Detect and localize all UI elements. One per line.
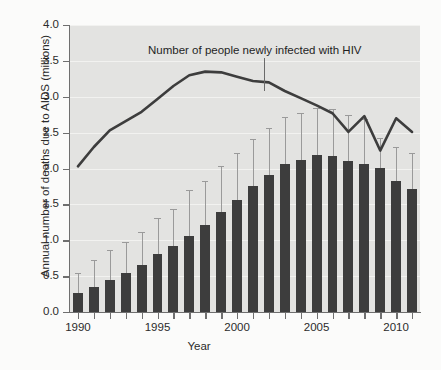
x-axis-tick: [237, 313, 238, 319]
y-axis-tick: [63, 97, 69, 98]
chart-figure: 0.00.51.01.52.02.53.03.54.0 199019952000…: [0, 0, 441, 370]
x-axis-tick: [142, 313, 143, 319]
y-axis-tick: [63, 133, 69, 134]
x-axis-tick: [333, 313, 334, 319]
hiv-infections-line-layer: [70, 25, 420, 312]
plot-panel: [70, 25, 420, 312]
x-axis-tick: [285, 313, 286, 319]
y-axis-tick: [63, 312, 69, 313]
x-axis-tick: [396, 313, 397, 319]
x-axis-tick: [126, 313, 127, 319]
x-axis-tick: [189, 313, 190, 319]
x-axis-tick: [269, 313, 270, 319]
x-axis-line: [69, 312, 421, 313]
x-axis-tick: [412, 313, 413, 319]
y-axis-line: [69, 25, 70, 313]
y-axis-tick: [63, 25, 69, 26]
y-axis-tick: [63, 240, 69, 241]
y-axis-tick-label: 0.0: [43, 306, 59, 318]
y-axis-tick: [63, 204, 69, 205]
x-axis-tick: [364, 313, 365, 319]
x-axis-tick: [205, 313, 206, 319]
y-axis-tick: [63, 61, 69, 62]
y-axis-title: Annual number of deaths due to AIDS (mil…: [39, 16, 51, 296]
x-axis-tick: [110, 313, 111, 319]
x-axis-tick: [380, 313, 381, 319]
y-axis-tick: [63, 276, 69, 277]
x-axis-tick-label: 1995: [145, 322, 171, 334]
x-axis-tick: [348, 313, 349, 319]
x-axis-tick: [317, 313, 318, 319]
x-axis-tick: [78, 313, 79, 319]
x-axis-tick: [173, 313, 174, 319]
x-axis-tick-label: 2010: [383, 322, 409, 334]
y-axis-tick: [63, 169, 69, 170]
hiv-annotation-label: Number of people newly infected with HIV: [148, 44, 362, 56]
x-axis-tick-label: 2000: [224, 322, 250, 334]
x-axis-tick: [158, 313, 159, 319]
x-axis-tick: [301, 313, 302, 319]
hiv-annotation-leader-line: [264, 58, 265, 91]
x-axis-tick-label: 2005: [304, 322, 330, 334]
x-axis-tick: [94, 313, 95, 319]
x-axis-tick: [253, 313, 254, 319]
x-axis-title: Year: [0, 340, 398, 352]
hiv-infections-line: [78, 72, 412, 167]
x-axis-tick-label: 1990: [65, 322, 91, 334]
x-axis-tick: [221, 313, 222, 319]
